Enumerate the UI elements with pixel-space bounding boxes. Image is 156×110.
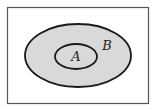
set-a-label: A	[70, 49, 80, 64]
venn-diagram: B A	[0, 0, 156, 110]
set-b-label: B	[101, 38, 112, 53]
